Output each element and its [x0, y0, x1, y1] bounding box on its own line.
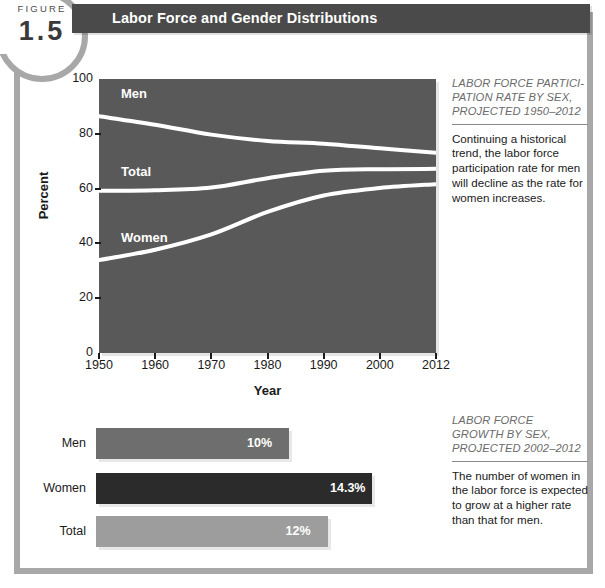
x-axis-title: Year [99, 383, 436, 398]
x-axis-tick-label: 1950 [85, 358, 113, 372]
line-chart: MenTotalWomen [99, 79, 436, 353]
y-axis-tick-label: 20 [79, 290, 93, 304]
x-axis-tick-label: 1980 [254, 358, 282, 372]
annotation-heading: LABOR FORCE GROWTH BY SEX, PROJECTED 200… [452, 413, 588, 462]
annotation-heading: LABOR FORCE PARTICI-PATION RATE BY SEX, … [452, 76, 588, 125]
y-axis-tick-label: 80 [79, 126, 93, 140]
annotation-participation: LABOR FORCE PARTICI-PATION RATE BY SEX, … [452, 76, 588, 206]
x-axis-tick-label: 1960 [141, 358, 169, 372]
y-axis-tick-label: 40 [79, 235, 93, 249]
x-axis-tick [267, 353, 269, 359]
x-axis-tick-label: 2000 [366, 358, 394, 372]
x-axis-tick [435, 353, 437, 359]
x-axis-tick-label: 2012 [422, 358, 450, 372]
y-axis-tick-label: 0 [86, 345, 93, 359]
y-axis-title: Percent [36, 151, 51, 241]
line-chart-svg [99, 79, 436, 353]
x-axis-tick-label: 1990 [310, 358, 338, 372]
figure-number: 1.5 [6, 16, 78, 46]
figure-label: FIGURE 1.5 [6, 2, 78, 46]
x-axis-tick [98, 353, 100, 359]
x-axis-tick [379, 353, 381, 359]
y-axis-tick-label: 100 [72, 71, 93, 85]
line-series-men [99, 116, 436, 152]
y-axis-tick-label: 60 [79, 181, 93, 195]
y-axis-tick [95, 242, 101, 244]
series-label-men: Men [121, 86, 147, 101]
x-axis-tick-label: 1970 [197, 358, 225, 372]
line-chart-y-axis: 020406080100 [55, 79, 93, 353]
annotation-body: The number of women in the labor force i… [452, 462, 588, 528]
figure-title-bar: Labor Force and Gender Distributions [72, 4, 590, 33]
series-label-total: Total [121, 164, 151, 179]
x-axis-tick [154, 353, 156, 359]
y-axis-tick [95, 297, 101, 299]
page-title: Labor Force and Gender Distributions [112, 4, 377, 33]
line-chart-x-axis: 1950196019701980199020002012 [99, 358, 436, 376]
figure-container: FIGURE 1.5 Labor Force and Gender Distri… [0, 0, 605, 588]
series-label-women: Women [121, 230, 168, 245]
y-axis-tick [95, 133, 101, 135]
x-axis-tick [323, 353, 325, 359]
figure-word: FIGURE [6, 2, 78, 15]
annotation-body: Continuing a historical trend, the labor… [452, 125, 588, 206]
x-axis-tick [210, 353, 212, 359]
line-series-women [99, 184, 436, 260]
annotation-growth: LABOR FORCE GROWTH BY SEX, PROJECTED 200… [452, 413, 588, 528]
y-axis-tick [95, 188, 101, 190]
